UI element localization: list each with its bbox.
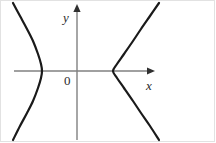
plot-canvas <box>0 0 216 143</box>
hyperbola-figure: y x 0 <box>0 0 216 143</box>
y-axis-arrowhead <box>73 4 80 12</box>
origin-label: 0 <box>64 74 71 87</box>
x-axis-label: x <box>146 79 152 92</box>
axis-group <box>14 4 155 140</box>
x-axis-arrowhead <box>147 67 155 74</box>
y-axis-label: y <box>63 11 69 24</box>
